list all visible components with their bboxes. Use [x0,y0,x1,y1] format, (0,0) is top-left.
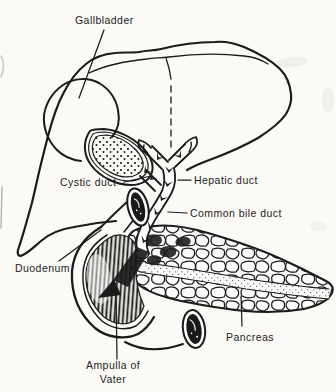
ampulla-of-vater-label-line2: Vater [100,373,127,385]
pancreas-body [126,225,333,312]
liver-inner-contour [89,54,268,79]
hepatic-duct-label: Hepatic duct [194,174,258,186]
duodenum-cut-section-lower [180,309,207,350]
duodenum-label: Duodenum [15,262,70,274]
duodenum-cut-section-upper [124,186,153,228]
diagram-page: Gallbladder Cystic duct Hepatic duct Com… [0,0,336,392]
pancreas-label: Pancreas [226,331,274,343]
cystic-duct-label: Cystic duct [60,176,116,188]
common-bile-duct-label: Common bile duct [190,207,282,219]
gallbladder-leader-line [79,30,104,98]
cystic-duct-connector [140,170,161,191]
hepatic-duct-branches [138,137,197,169]
common-bile-duct-leader-line [168,212,187,213]
duodenum-bottom-connector [125,342,183,349]
leader-lines [59,30,242,359]
biliary-system-diagram: Gallbladder Cystic duct Hepatic duct Com… [0,0,336,392]
gallbladder-label: Gallbladder [75,14,134,26]
ampulla-of-vater-label-line1: Ampulla of [86,359,140,371]
